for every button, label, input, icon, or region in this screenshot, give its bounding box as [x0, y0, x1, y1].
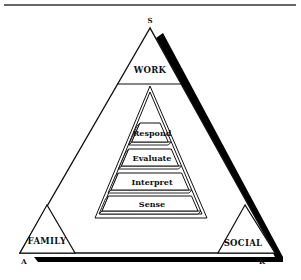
stage-band-sense: Sense	[99, 196, 201, 214]
vertex-label-top: S	[147, 16, 152, 25]
stage-label-sense: Sense	[139, 199, 165, 209]
stage-band-evaluate: Evaluate	[118, 149, 181, 169]
stage-label-evaluate: Evaluate	[133, 153, 172, 163]
vertex-label-bottom-right: K	[259, 257, 266, 266]
zone-label-work: WORK	[133, 65, 167, 75]
zone-label-family: FAMILY	[28, 236, 67, 246]
vertex-label-bottom-left: A	[20, 257, 27, 266]
triangle-model-diagram: RespondEvaluateInterpretSense S A K WORK…	[0, 0, 301, 280]
bottom-edge-shadow	[34, 257, 283, 262]
stage-label-respond: Respond	[133, 128, 172, 138]
stage-label-interpret: Interpret	[131, 177, 172, 187]
zone-label-social: SOCIAL	[224, 238, 263, 248]
stage-band-interpret: Interpret	[108, 173, 192, 193]
